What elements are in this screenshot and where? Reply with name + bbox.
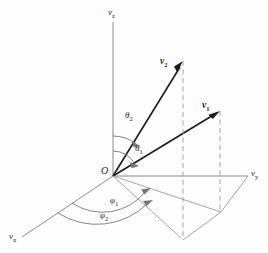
lower-left-axis-label: vx (9, 232, 16, 243)
vector-v2-label: v2 (160, 57, 167, 68)
vector-diagram-figure: vz vy vx O v2 v1 θ2 θ1 φ1 φ2 (0, 0, 268, 253)
vector-v1-label-sub: 1 (206, 105, 209, 112)
vector-v2-shaft (113, 67, 180, 176)
vertical-axis-label: vz (108, 8, 115, 19)
vertical-axis-label-sub: z (112, 12, 115, 19)
vector-v2-label-sub: 2 (164, 61, 167, 68)
projection-base-connector (183, 212, 221, 240)
vector-v1-label: v1 (202, 101, 209, 112)
ground-projection-v2 (113, 176, 181, 238)
ground-projection-v1 (113, 176, 221, 212)
angle-theta1-label-sub: 1 (139, 148, 142, 155)
lower-left-axis-line (22, 176, 113, 237)
diagram-canvas (0, 0, 268, 253)
origin-label: O (101, 166, 108, 176)
vector-v1-shaft (113, 114, 215, 176)
lower-left-axis-label-sub: x (13, 236, 16, 243)
projection-base-connector-right (221, 176, 248, 212)
angle-phi2-label-sub: 2 (105, 215, 108, 222)
angle-phi1-label: φ1 (110, 196, 118, 207)
right-axis-label-sub: y (255, 173, 258, 180)
angle-theta1-label: θ1 (135, 144, 143, 155)
angle-phi1-label-sub: 1 (115, 200, 118, 207)
angle-theta2-label: θ2 (125, 111, 133, 122)
right-axis-label: vy (251, 169, 258, 180)
angle-theta2-label-sub: 2 (129, 115, 132, 122)
arc-phi1 (72, 191, 146, 212)
arc-phi1-arrowhead (141, 188, 151, 194)
angle-phi2-label: φ2 (100, 211, 108, 222)
